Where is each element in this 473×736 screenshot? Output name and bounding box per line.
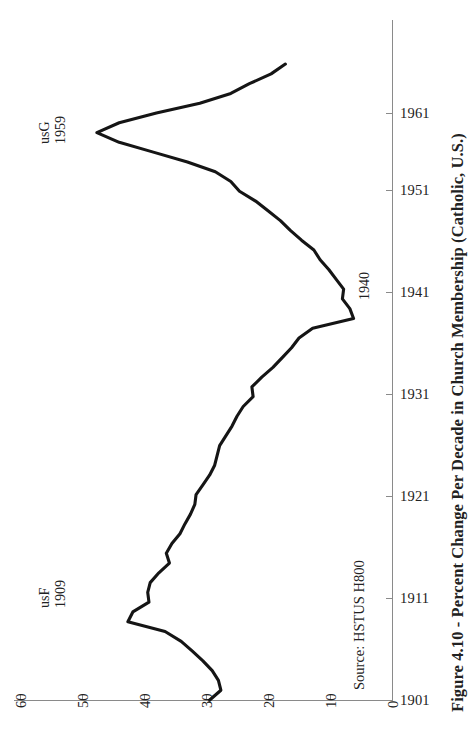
series-line-catholic-membership	[97, 64, 354, 700]
data-line-plot	[0, 0, 473, 736]
chart-figure: 1901 1911 1921 1931 1941 1951 1961 60 50…	[0, 0, 473, 736]
